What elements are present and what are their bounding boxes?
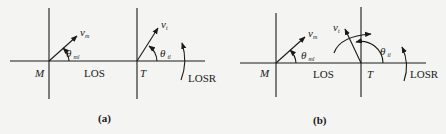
panel-b: vm θml vt θtl M LOS T LOSR (b) — [240, 7, 439, 127]
panel-a: vm θml vt θtl M LOS T LOSR (a) — [10, 8, 217, 125]
missile-angle-arc — [290, 50, 296, 63]
missile-label: M — [259, 67, 270, 79]
missile-velocity-label: vm — [80, 26, 90, 39]
target-velocity-label: vt — [161, 18, 168, 31]
losr-label: LOSR — [410, 68, 439, 80]
target-angle-arc — [149, 46, 157, 61]
target-angle-label: θtl — [380, 45, 391, 58]
target-velocity-label: vt — [333, 21, 340, 34]
missile-velocity-label: vm — [308, 27, 318, 40]
missile-angle-label: θml — [301, 49, 315, 62]
target-label: T — [367, 68, 374, 80]
target-velocity-arrow — [137, 28, 158, 61]
caption-b: (b) — [313, 114, 327, 127]
los-geometry-diagram: vm θml vt θtl M LOS T LOSR (a) vm θml vt… — [0, 0, 446, 134]
losr-label: LOSR — [188, 72, 217, 84]
los-label: LOS — [84, 67, 105, 79]
caption-a: (a) — [98, 112, 111, 125]
missile-label: M — [34, 67, 45, 79]
los-label: LOS — [313, 68, 334, 80]
target-velocity-arrow — [345, 29, 361, 63]
missile-angle-label: θml — [66, 47, 80, 60]
target-angle-label: θtl — [160, 47, 171, 60]
target-label: T — [140, 67, 147, 79]
target-heading-rotation-arrow — [334, 34, 371, 53]
losr-rotation-arrow — [402, 47, 407, 81]
